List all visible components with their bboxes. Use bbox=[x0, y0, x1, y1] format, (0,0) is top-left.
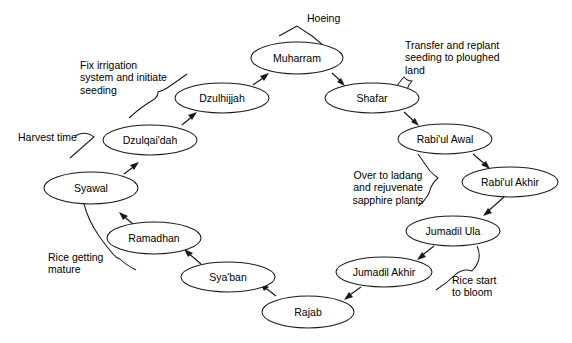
annotation-transfer-replant: Transfer and replantseeding to ploughedl… bbox=[405, 39, 500, 76]
node-label-jumadil-akhir: Jumadil Akhir bbox=[353, 266, 416, 278]
annotation-over-to-ladang: Over to ladangand rejuvenatesapphire pla… bbox=[338, 169, 438, 206]
node-syawal[interactable]: Syawal bbox=[44, 172, 138, 204]
flow-arrow-syaban-to-ramadhan bbox=[184, 249, 201, 264]
node-label-dzulqaidah: Dzulqai'dah bbox=[123, 134, 178, 146]
annotation-rice-start-bloom: Rice startto bloom bbox=[452, 274, 496, 299]
flow-arrow-rabiul-awal-to-rabiul-akhir bbox=[473, 154, 490, 169]
flow-arrow-dzulqaidah-to-dzulhijjah bbox=[182, 112, 197, 125]
node-rajab[interactable]: Rajab bbox=[262, 296, 354, 328]
annotation-harvest-time: Harvest time bbox=[18, 131, 77, 143]
node-syaban[interactable]: Sya'ban bbox=[181, 262, 275, 292]
annotation-fix-irrigation: Fix irrigationsystem and initiateseeding bbox=[80, 59, 167, 96]
node-label-muharram: Muharram bbox=[273, 52, 321, 64]
node-rabiul-akhir[interactable]: Rabi'ul Akhir bbox=[462, 167, 558, 197]
node-dzulhijjah[interactable]: Dzulhijjah bbox=[175, 83, 269, 113]
annotation-hoeing: Hoeing bbox=[307, 12, 340, 24]
flow-arrow-jumadil-akhir-to-rajab bbox=[344, 287, 361, 300]
flow-arrow-syawal-to-dzulqaidah bbox=[124, 162, 139, 174]
flow-arrow-jumadil-ula-to-jumadil-akhir bbox=[417, 246, 434, 260]
cycle-diagram-canvas: Muharram Shafar Rabi'ul Awal Rabi'ul Akh… bbox=[0, 0, 572, 343]
node-label-rajab: Rajab bbox=[294, 306, 322, 318]
node-jumadil-ula[interactable]: Jumadil Ula bbox=[406, 216, 500, 246]
flow-arrow-shafar-to-rabiul-awal bbox=[404, 112, 419, 126]
node-label-rabiul-akhir: Rabi'ul Akhir bbox=[481, 176, 540, 188]
node-muharram[interactable]: Muharram bbox=[251, 42, 343, 74]
node-label-jumadil-ula: Jumadil Ula bbox=[426, 225, 481, 237]
flow-arrow-group bbox=[119, 73, 504, 300]
node-rabiul-awal[interactable]: Rabi'ul Awal bbox=[398, 124, 492, 154]
flow-arrow-ramadhan-to-syawal bbox=[119, 212, 133, 224]
node-label-dzulhijjah: Dzulhijjah bbox=[199, 92, 245, 104]
node-jumadil-akhir[interactable]: Jumadil Akhir bbox=[336, 257, 432, 287]
node-label-rabiul-awal: Rabi'ul Awal bbox=[417, 133, 474, 145]
annotation-rice-getting-mature: Rice gettingmature bbox=[48, 251, 103, 276]
flow-arrow-dzulhijjah-to-muharram bbox=[253, 73, 269, 85]
node-shafar[interactable]: Shafar bbox=[325, 83, 419, 113]
flow-arrow-muharram-to-shafar bbox=[332, 73, 345, 86]
flow-arrow-rabiul-akhir-to-jumadil-ula bbox=[483, 197, 504, 216]
node-label-ramadhan: Ramadhan bbox=[128, 232, 180, 244]
node-label-syaban: Sya'ban bbox=[209, 271, 247, 283]
node-dzulqaidah[interactable]: Dzulqai'dah bbox=[103, 125, 197, 155]
node-label-syawal: Syawal bbox=[74, 182, 108, 194]
node-ramadhan[interactable]: Ramadhan bbox=[107, 222, 201, 254]
node-label-shafar: Shafar bbox=[357, 92, 388, 104]
